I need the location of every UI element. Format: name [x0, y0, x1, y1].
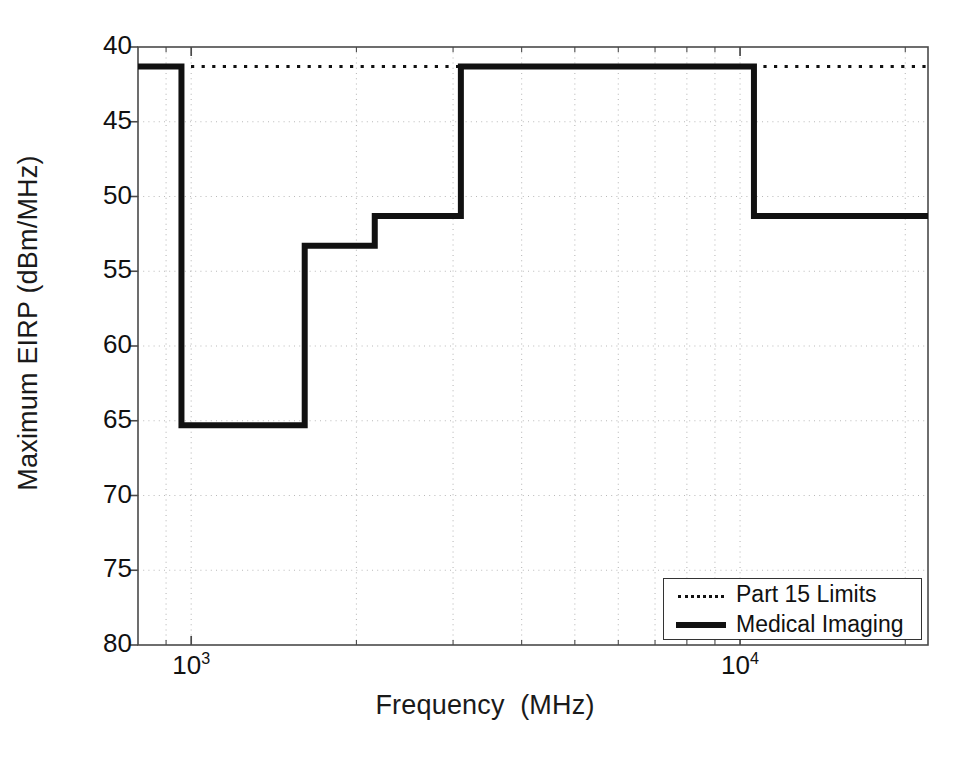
x-axis-tick-labels: 103104 — [0, 0, 970, 772]
legend-label-part-15-limits: Part 15 Limits — [736, 581, 877, 608]
y-axis-label-container: Maximum EIRP (dBm/MHz) — [0, 0, 56, 645]
x-tick-label: 104 — [721, 652, 759, 678]
x-axis-label: Frequency (MHz) — [0, 690, 970, 721]
legend-swatch-solid-line-icon — [674, 615, 728, 635]
chart-legend: Part 15 Limits Medical Imaging — [663, 578, 922, 640]
legend-entry-medical-imaging: Medical Imaging — [664, 609, 921, 640]
figure-canvas: 404550556065707580 103104 Maximum EIRP (… — [0, 0, 970, 772]
y-axis-label: Maximum EIRP (dBm/MHz) — [13, 155, 44, 490]
legend-label-medical-imaging: Medical Imaging — [736, 611, 903, 638]
legend-swatch-dotted-line-icon — [674, 585, 728, 605]
legend-entry-part-15-limits: Part 15 Limits — [664, 579, 921, 610]
x-tick-label: 103 — [172, 652, 210, 678]
